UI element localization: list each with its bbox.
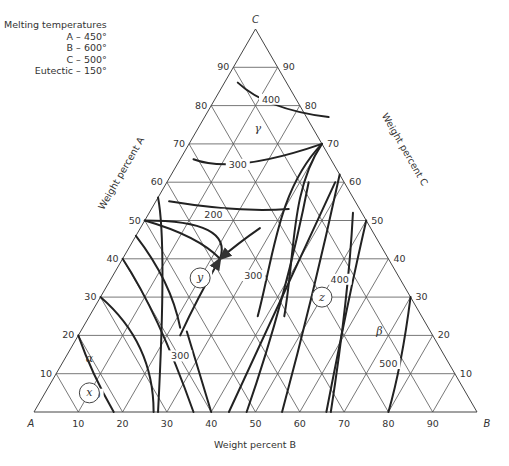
tick-a: 40 (107, 253, 119, 264)
tick-c: 80 (305, 100, 317, 111)
isotherm-beta-400 (331, 213, 353, 412)
isotherm-gamma-300 (193, 144, 321, 164)
isotherm-200-gamma-edge (145, 221, 222, 259)
grid-line-a (56, 374, 78, 412)
isotherm-alpha-300b (100, 297, 153, 412)
phase-label-beta: β (375, 325, 382, 338)
tick-b: 90 (427, 418, 439, 429)
phase-curves (78, 83, 410, 412)
tick-c: 60 (349, 176, 361, 187)
vertex-a-label: A (27, 418, 35, 429)
axis-title-b: Weight percent B (214, 439, 296, 450)
tick-c: 10 (460, 368, 472, 379)
point-z-label: z (318, 291, 325, 304)
tick-a: 30 (84, 291, 96, 302)
isotherm-label-gamma-400: 400 (262, 94, 280, 105)
point-y-label: y (196, 271, 204, 284)
tick-b: 10 (72, 418, 84, 429)
isotherm-label-beta-500: 500 (379, 358, 397, 369)
tick-c: 20 (438, 329, 450, 340)
isotherm-label-beta-300: 300 (244, 270, 262, 281)
tick-c: 50 (371, 215, 383, 226)
phase-label-gamma: γ (254, 122, 261, 135)
tick-a: 20 (62, 329, 74, 340)
tick-b: 60 (294, 418, 306, 429)
tick-c: 30 (416, 291, 428, 302)
axis-title-c: Weight percent C (380, 111, 431, 188)
tick-b: 70 (338, 418, 350, 429)
tick-c: 70 (327, 138, 339, 149)
grid-line-b (344, 297, 410, 412)
tick-b: 80 (382, 418, 394, 429)
diagram-labels: 1010102020203030304040405050506060607070… (27, 14, 491, 450)
axis-title-a: Weight percent A (96, 135, 147, 212)
tick-a: 60 (151, 176, 163, 187)
isotherm-label-alpha-300: 300 (171, 350, 189, 361)
vertex-b-label: B (484, 418, 491, 429)
tick-b: 30 (161, 418, 173, 429)
tick-a: 70 (173, 138, 185, 149)
tick-a: 10 (40, 368, 52, 379)
tick-c: 40 (393, 253, 405, 264)
tick-a: 90 (217, 61, 229, 72)
tick-b: 50 (249, 418, 261, 429)
isotherm-alpha-200b (136, 236, 180, 328)
tick-a: 80 (195, 100, 207, 111)
ternary-diagram: 1010102020203030304040405050506060607070… (0, 0, 509, 466)
tick-c: 90 (283, 61, 295, 72)
isotherm-label-gamma-200: 200 (204, 209, 222, 220)
phase-label-alpha: α (86, 352, 94, 365)
isotherm-label-beta-400: 400 (331, 274, 349, 285)
grid-line-b (433, 374, 455, 412)
vertex-c-label: C (252, 14, 259, 25)
tick-b: 40 (205, 418, 217, 429)
isotherm-label-gamma-300: 300 (229, 159, 247, 170)
tick-a: 50 (129, 215, 141, 226)
tick-b: 20 (117, 418, 129, 429)
isotherm-alpha-200 (158, 198, 162, 412)
grid-line-a (100, 297, 166, 412)
point-x-label: x (86, 386, 93, 399)
